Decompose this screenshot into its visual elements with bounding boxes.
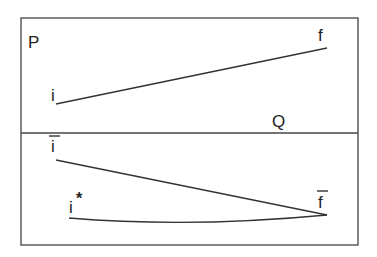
label-top-i: i [51,86,55,105]
bottom-line-ibar-to-fbar [56,160,327,215]
label-star: * [76,190,83,207]
label-ibar: i [51,137,55,156]
label-top-f: f [318,26,323,45]
top-line-i-to-f [56,48,327,104]
label-q: Q [272,112,285,131]
bottom-curve-istar-to-fbar [69,215,327,222]
diagram-canvas: P Q i f i i * f [0,0,377,257]
label-istar: i [69,198,73,217]
label-fbar: f [318,193,323,212]
label-p: P [28,33,39,52]
